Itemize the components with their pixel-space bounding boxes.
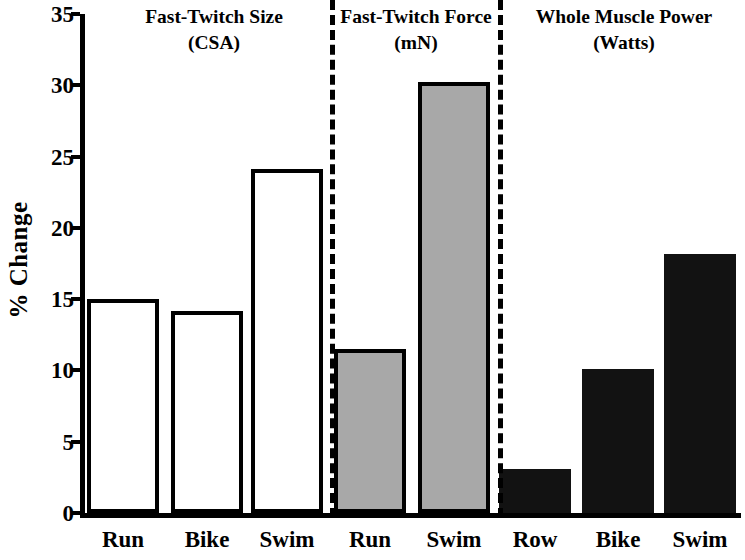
plot-area [80,14,741,518]
y-axis-tick-labels: 05101520253035 [0,0,74,560]
y-tick-label-10: 10 [30,359,74,382]
bar-swim-panel2 [418,82,490,513]
bar-bike-panel3 [582,369,654,513]
y-tick-label-15: 15 [30,288,74,311]
panel-divider-2 [498,0,503,518]
y-tickmark-25 [71,155,80,159]
bar-swim-panel3 [664,254,736,513]
panel-title-3: Whole Muscle Power(Watts) [506,4,742,57]
panel-title-line2: (CSA) [100,30,328,56]
bar-run-panel2 [334,349,406,513]
bar-row-panel3 [499,469,571,513]
panel-title-line1: Fast-Twitch Force [336,4,496,30]
x-tick-label-7: Swim [650,527,745,553]
y-tickmark-5 [71,440,80,444]
bar-swim-panel1 [251,169,323,513]
panel-title-1: Fast-Twitch Size(CSA) [100,4,328,57]
chart-figure: % Change 05101520253035 Fast-Twitch Size… [0,0,745,560]
y-axis-line [80,14,85,518]
y-tick-label-0: 0 [30,502,74,525]
y-tickmark-30 [71,83,80,87]
y-tick-label-20: 20 [30,216,74,239]
panel-title-2: Fast-Twitch Force(mN) [336,4,496,57]
panel-title-line2: (mN) [336,30,496,56]
bar-run-panel1 [87,299,159,513]
panel-title-line2: (Watts) [506,30,742,56]
y-tickmark-20 [71,226,80,230]
panel-divider-1 [330,0,335,518]
bar-bike-panel1 [171,311,243,513]
y-tickmark-35 [71,12,80,16]
panel-title-line1: Whole Muscle Power [506,4,742,30]
y-tick-label-30: 30 [30,74,74,97]
x-axis-line [80,513,741,518]
y-tick-label-35: 35 [30,3,74,26]
y-tick-label-5: 5 [30,430,74,453]
y-tickmark-10 [71,368,80,372]
panel-title-line1: Fast-Twitch Size [100,4,328,30]
y-tickmark-15 [71,297,80,301]
y-tick-label-25: 25 [30,145,74,168]
y-tickmark-0 [71,511,80,515]
